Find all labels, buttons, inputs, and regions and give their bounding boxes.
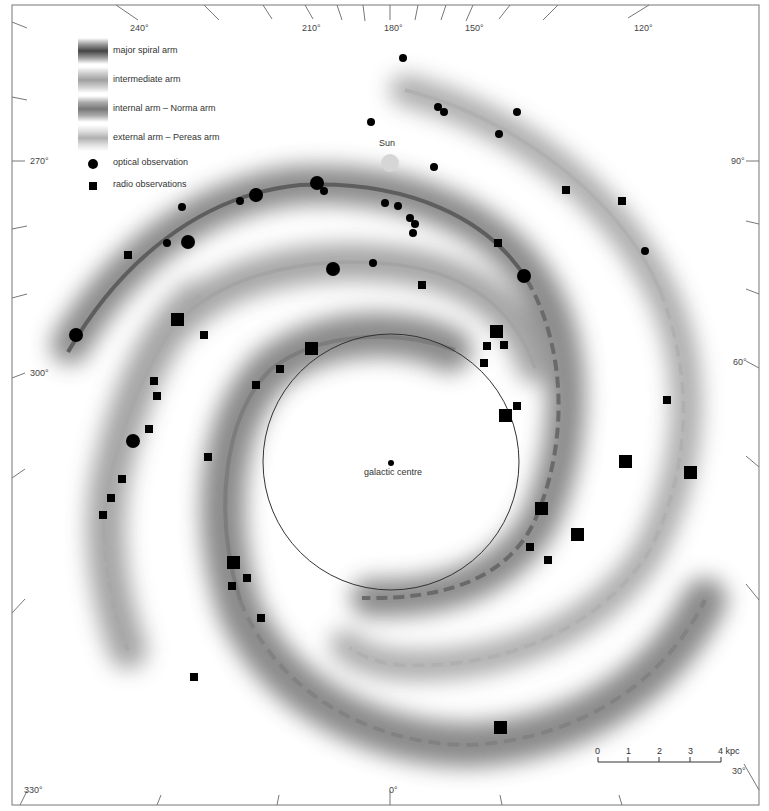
legend-label: intermediate arm [113,74,181,84]
galactic-centre-dot [388,460,394,466]
angle-label-60: 60° [733,357,747,367]
pereas-arm-swatch [78,125,108,151]
optical-observation-icon [88,159,98,169]
scale-tick-0: 0 [595,746,600,756]
scale-bar-lines [598,757,721,762]
legend-item-norma-arm: internal arm – Norma arm [76,96,296,125]
angle-label-30: 30° [732,766,746,776]
legend-label: major spiral arm [113,45,178,55]
major-arm-swatch [78,38,108,64]
legend-item-major-arm: major spiral arm [76,38,296,67]
sun-marker [381,154,399,172]
galaxy-map: 240° 210° 180° 150° 120° 270° 300° 90° 6… [0,0,769,811]
intermediate-arm-swatch [78,67,108,93]
legend-item-optical: optical observation [76,154,296,176]
angle-label-120: 120° [634,23,653,33]
sun-label: Sun [379,138,395,148]
radio-observation-icon [89,182,97,190]
angle-label-150: 150° [465,23,484,33]
angle-label-330: 330° [24,785,43,795]
angle-label-90: 90° [731,156,745,166]
angle-label-210: 210° [302,23,321,33]
legend: major spiral arm intermediate arm intern… [76,38,296,198]
angle-label-270: 270° [30,156,49,166]
galactic-centre-label: galactic centre [364,467,422,477]
scale-tick-2: 2 [657,746,662,756]
angle-label-0: 0° [389,785,398,795]
angle-label-240: 240° [130,23,149,33]
scale-tick-4: 4 kpc [718,746,740,756]
angle-label-300: 300° [30,368,49,378]
angle-label-180: 180° [384,23,403,33]
legend-label: radio observations [113,179,187,189]
scale-tick-1: 1 [626,746,631,756]
legend-item-radio: radio observations [76,176,296,198]
legend-item-intermediate-arm: intermediate arm [76,67,296,96]
legend-label: optical observation [113,157,188,167]
legend-item-pereas-arm: external arm – Pereas arm [76,125,296,154]
scale-tick-3: 3 [688,746,693,756]
legend-label: internal arm – Norma arm [113,103,216,113]
norma-arm-swatch [78,96,108,122]
legend-label: external arm – Pereas arm [113,132,220,142]
